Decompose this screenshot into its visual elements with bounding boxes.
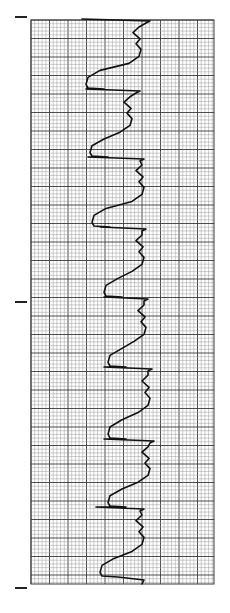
ecg-strip [0,0,230,613]
calibration-markers [15,16,27,589]
ecg-grid-paper [31,20,214,584]
ecg-waveform-trace [82,19,154,584]
